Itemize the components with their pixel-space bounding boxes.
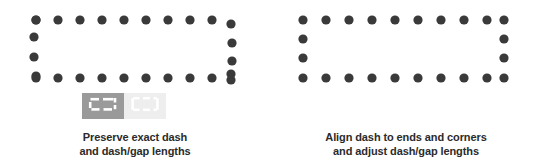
panel-align-dash-to-ends: Align dash to ends and corners and adjus…	[271, 0, 541, 168]
dotted-rectangle-aligned	[271, 0, 541, 90]
caption-line-2: and adjust dash/gap lengths	[271, 145, 541, 159]
panel-caption: Align dash to ends and corners and adjus…	[271, 131, 541, 158]
caption-line-1: Align dash to ends and corners	[271, 131, 541, 145]
caption-line-2: and dash/gap lengths	[0, 145, 270, 159]
caption-line-1: Preserve exact dash	[0, 131, 270, 145]
dash-alignment-comparison-figure: Preserve exact dash and dash/gap lengths	[0, 0, 541, 168]
preserve-dash-length-button[interactable]	[82, 93, 124, 119]
dash-alignment-toggle-group[interactable]	[82, 93, 166, 119]
dashed-rect-aligned-icon	[130, 96, 160, 116]
dashed-rect-unaligned-icon	[88, 96, 118, 116]
panel-preserve-exact-dash: Preserve exact dash and dash/gap lengths	[0, 0, 270, 168]
dotted-rectangle-unaligned	[0, 0, 270, 90]
align-dash-to-corners-button[interactable]	[124, 93, 166, 119]
panel-caption: Preserve exact dash and dash/gap lengths	[0, 131, 270, 158]
